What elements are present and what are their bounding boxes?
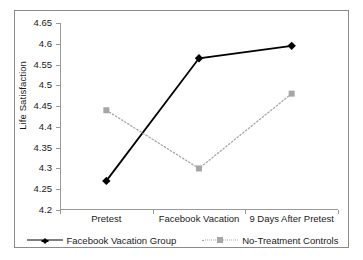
y-axis-title: Life Satisfaction	[17, 61, 28, 130]
chart-legend: Facebook Vacation GroupNo-Treatment Cont…	[15, 232, 350, 248]
y-tick-label: 4.6	[39, 39, 52, 49]
x-tick	[338, 210, 339, 214]
y-tick-label: 4.65	[34, 18, 53, 28]
chart-figure: Life Satisfaction 4.654.64.554.54.454.44…	[14, 10, 349, 248]
data-point	[289, 91, 295, 97]
legend-item[interactable]: No-Treatment Controls	[202, 235, 338, 246]
data-point	[103, 107, 109, 113]
legend-item[interactable]: Facebook Vacation Group	[27, 235, 177, 246]
y-tick-label: 4.25	[34, 184, 53, 194]
y-tick-label: 4.2	[39, 205, 52, 215]
legend-label: No-Treatment Controls	[242, 235, 338, 246]
x-axis-label: Facebook Vacation	[159, 213, 240, 224]
square-marker-icon	[202, 235, 238, 245]
y-tick-label: 4.55	[34, 60, 53, 70]
data-point	[287, 42, 295, 50]
plot-area: 4.654.64.554.54.454.44.354.34.254.2	[60, 23, 338, 210]
series-plot	[60, 23, 338, 210]
legend-label: Facebook Vacation Group	[67, 235, 177, 246]
diamond-marker-icon	[27, 235, 63, 245]
y-tick-label: 4.45	[34, 101, 53, 111]
x-axis-labels: PretestFacebook Vacation9 Days After Pre…	[60, 213, 338, 229]
x-axis-label: Pretest	[91, 213, 121, 224]
y-tick-label: 4.3	[39, 164, 52, 174]
data-point	[196, 165, 202, 171]
series-2	[103, 91, 294, 172]
x-axis-label: 9 Days After Pretest	[249, 213, 333, 224]
y-tick-label: 4.4	[39, 122, 52, 132]
series-line	[106, 94, 291, 169]
series-line	[106, 46, 291, 181]
y-tick-label: 4.35	[34, 143, 53, 153]
y-tick-label: 4.5	[39, 81, 52, 91]
series-1	[102, 42, 296, 185]
